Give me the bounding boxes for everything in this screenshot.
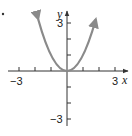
y-min-label: −3 (50, 113, 63, 125)
parabola-graph: y 3 −3 −3 3 x (0, 0, 132, 136)
x-max-label: 3 (112, 75, 118, 87)
x-min-label: −3 (10, 75, 23, 87)
x-axis-label: x (121, 73, 128, 87)
y-max-label: 3 (57, 17, 63, 29)
bullet-dot (2, 13, 4, 15)
